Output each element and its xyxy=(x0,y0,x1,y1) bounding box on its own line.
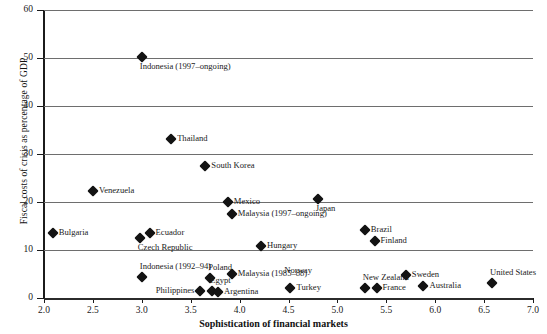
data-point-label: Finland xyxy=(381,236,407,245)
y-tick-label-10: 10 xyxy=(5,245,33,255)
x-tick-7.0 xyxy=(533,298,534,303)
data-point-label: Malaysia (1985–88) xyxy=(238,269,307,278)
diamond-marker xyxy=(226,209,237,220)
gridline-y-20 xyxy=(44,202,533,203)
diamond-marker xyxy=(359,225,370,236)
data-point-label: South Korea xyxy=(211,161,254,170)
data-point-label: Argentina xyxy=(224,287,258,296)
data-point-label: Indonesia (1992–94) xyxy=(140,262,211,271)
y-tick-20 xyxy=(37,202,44,203)
x-tick-label-5.5: 5.5 xyxy=(366,305,406,315)
x-tick-label-5.0: 5.0 xyxy=(317,305,357,315)
diamond-marker xyxy=(369,236,380,247)
x-tick-label-2.0: 2.0 xyxy=(24,305,64,315)
data-point-label: Bulgaria xyxy=(59,228,89,237)
diamond-marker xyxy=(486,277,497,288)
scatter-chart: Fiscal costs of crisis as percentage of … xyxy=(0,0,547,334)
data-point-label: Poland xyxy=(208,263,232,272)
data-point-label: New Zealand xyxy=(363,273,409,282)
data-point-label: Venezuela xyxy=(99,186,134,195)
diamond-marker xyxy=(371,283,382,294)
x-tick-label-2.5: 2.5 xyxy=(73,305,113,315)
y-tick-label-40: 40 xyxy=(5,101,33,111)
y-tick-label-30: 30 xyxy=(5,149,33,159)
x-tick-label-3.0: 3.0 xyxy=(122,305,162,315)
diamond-marker xyxy=(136,272,147,283)
y-tick-30 xyxy=(37,154,44,155)
data-point-label: Turkey xyxy=(296,283,321,292)
data-point-label: Philippines xyxy=(156,286,195,295)
plot-area: Indonesia (1997–ongoing)ThailandSouth Ko… xyxy=(44,10,533,298)
diamond-marker xyxy=(195,286,206,297)
y-tick-60 xyxy=(37,10,44,11)
diamond-marker xyxy=(285,282,296,293)
diamond-marker xyxy=(418,281,429,292)
y-tick-label-20: 20 xyxy=(5,197,33,207)
data-point-label: Sweden xyxy=(412,270,439,279)
data-point-label: Hungary xyxy=(267,241,297,250)
diamond-marker xyxy=(212,287,223,298)
x-tick-label-6.5: 6.5 xyxy=(464,305,504,315)
data-point-label: Brazil xyxy=(371,225,392,234)
data-point-label: France xyxy=(383,283,406,292)
data-point-label: Ecuador xyxy=(156,228,185,237)
data-point-label: Thailand xyxy=(177,134,208,143)
diamond-marker xyxy=(359,283,370,294)
x-tick-label-7.0: 7.0 xyxy=(513,305,547,315)
data-point-label: Egypt xyxy=(210,276,231,285)
y-tick-40 xyxy=(37,106,44,107)
diamond-marker xyxy=(165,133,176,144)
x-tick-label-4.0: 4.0 xyxy=(220,305,260,315)
data-point-label: Indonesia (1997–ongoing) xyxy=(140,62,231,71)
y-tick-50 xyxy=(37,58,44,59)
y-tick-10 xyxy=(37,250,44,251)
y-tick-label-60: 60 xyxy=(5,5,33,15)
data-point-label: United States xyxy=(490,268,536,277)
data-point-label: Australia xyxy=(429,281,461,290)
data-point-label: Mexico xyxy=(234,197,260,206)
gridline-y-40 xyxy=(44,106,533,107)
gridline-y-0 xyxy=(44,298,533,300)
y-tick-label-0: 0 xyxy=(5,293,33,303)
diamond-marker xyxy=(200,161,211,172)
x-axis-title: Sophistication of financial markets xyxy=(0,318,547,329)
data-point-label: Malaysia (1997–ongoing) xyxy=(238,209,327,218)
y-tick-label-50: 50 xyxy=(5,53,33,63)
x-tick-label-4.5: 4.5 xyxy=(269,305,309,315)
gridline-y-60 xyxy=(44,10,533,11)
data-point-label: Czech Republic xyxy=(138,243,193,252)
diamond-marker xyxy=(87,185,98,196)
diamond-marker xyxy=(222,196,233,207)
x-tick-label-6.0: 6.0 xyxy=(415,305,455,315)
diamond-marker xyxy=(47,227,58,238)
gridline-y-50 xyxy=(44,58,533,59)
x-tick-label-3.5: 3.5 xyxy=(171,305,211,315)
y-tick-0 xyxy=(37,298,44,299)
gridline-y-30 xyxy=(44,154,533,155)
